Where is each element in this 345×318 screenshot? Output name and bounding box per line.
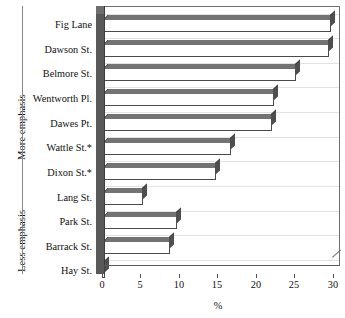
- bar-top-face: [103, 163, 221, 168]
- y-label-7: Lang St.: [20, 192, 92, 203]
- x-tick: [294, 274, 295, 278]
- bar-top-face: [103, 114, 277, 119]
- bar-barrack-st: [102, 241, 170, 254]
- y-axis-wall: [96, 6, 105, 274]
- gridline: [104, 186, 339, 187]
- bar-chart: More emphasis Less emphasis Fig Lane Daw…: [0, 0, 345, 318]
- bar-dawson-st: [102, 44, 329, 57]
- plot-floor-bevel: [332, 257, 340, 266]
- bar-lang-st: [102, 192, 143, 205]
- bar-park-st: [102, 216, 177, 229]
- y-label-2: Belmore St.: [20, 68, 92, 79]
- y-axis-wall-top: [96, 6, 104, 14]
- y-label-8: Park St.: [20, 216, 92, 227]
- bar-belmore-st: [102, 68, 296, 81]
- x-tick-label-0: 0: [99, 279, 104, 290]
- bar-top-face: [103, 212, 182, 217]
- bar-top-face: [103, 237, 175, 242]
- bar-top-face: [103, 40, 334, 45]
- x-tick: [217, 274, 218, 278]
- bar-dawes-pt: [102, 118, 272, 131]
- y-label-9: Barrack St.: [20, 241, 92, 252]
- x-tick: [102, 274, 103, 278]
- gridline: [104, 112, 339, 113]
- gridline: [104, 161, 339, 162]
- y-label-10: Hay St.: [20, 265, 92, 276]
- y-label-5: Wattle St.*: [20, 142, 92, 153]
- bar-top-face: [103, 188, 148, 193]
- gridline: [104, 260, 339, 261]
- gridline: [104, 87, 339, 88]
- plot-floor: [104, 265, 340, 266]
- x-tick-label-6: 30: [328, 279, 338, 290]
- x-tick: [333, 274, 334, 278]
- y-label-0: Fig Lane: [20, 19, 92, 30]
- x-axis-title: %: [96, 300, 340, 311]
- x-tick-label-4: 20: [251, 279, 261, 290]
- x-tick-label-3: 15: [212, 279, 222, 290]
- bar-top-face: [103, 64, 301, 69]
- plot-area: [96, 6, 340, 274]
- y-label-4: Dawes Pt.: [20, 118, 92, 129]
- bar-wentworth-pl: [102, 93, 274, 106]
- bar-top-face: [103, 15, 336, 20]
- group-rule-less: [22, 201, 23, 274]
- bar-fig-lane: [102, 19, 331, 32]
- bar-dixon-st: [102, 167, 216, 180]
- y-label-6: Dixon St.*: [20, 167, 92, 178]
- y-axis-labels: Fig Lane Dawson St. Belmore St. Wentwort…: [24, 6, 96, 274]
- gridline: [104, 235, 339, 236]
- y-label-3: Wentworth Pl.: [20, 93, 92, 104]
- gridline: [104, 38, 339, 39]
- x-axis: 0 5 10 15 20 25 30 %: [96, 274, 340, 318]
- bar-top-face: [103, 89, 279, 94]
- x-tick-label-1: 5: [137, 279, 142, 290]
- bar-top-face: [103, 138, 236, 143]
- bar-wattle-st: [102, 142, 231, 155]
- x-tick: [179, 274, 180, 278]
- y-label-1: Dawson St.: [20, 44, 92, 55]
- x-tick-label-5: 25: [289, 279, 299, 290]
- x-tick: [256, 274, 257, 278]
- x-tick: [140, 274, 141, 278]
- x-tick-label-2: 10: [174, 279, 184, 290]
